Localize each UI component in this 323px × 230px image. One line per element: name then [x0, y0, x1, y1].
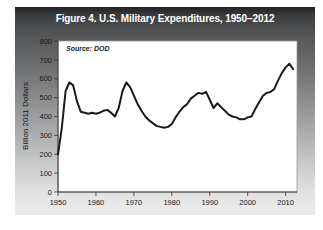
x-tick-label: 1980	[163, 198, 180, 207]
x-tick-label: 1970	[126, 198, 143, 207]
y-tick-label: 200	[39, 150, 52, 159]
plot-area	[58, 41, 297, 192]
y-tick-label: 300	[39, 131, 52, 140]
y-tick-label: 500	[39, 93, 52, 102]
figure-page: Figure 4. U.S. Military Expenditures, 19…	[0, 0, 323, 230]
y-tick-label: 800	[39, 37, 52, 46]
y-tick-label: 100	[39, 169, 52, 178]
x-tick-label: 1960	[88, 198, 105, 207]
y-tick-label: 400	[39, 112, 52, 121]
y-tick-label: 0	[48, 188, 52, 197]
y-tick-label: 600	[39, 74, 52, 83]
source-note: Source: DOD	[66, 45, 110, 52]
y-tick-label: 700	[39, 56, 52, 65]
x-tick-label: 2010	[277, 198, 294, 207]
x-tick-label: 1950	[50, 198, 67, 207]
x-tick-label: 1990	[201, 198, 218, 207]
figure-panel: Figure 4. U.S. Military Expenditures, 19…	[15, 7, 315, 215]
x-tick-label: 2000	[239, 198, 256, 207]
line-chart: 0100200300400500600700800195019601970198…	[15, 7, 315, 215]
